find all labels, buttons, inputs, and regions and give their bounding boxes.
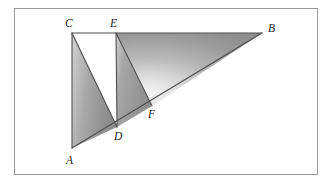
vertex-label-D: D bbox=[114, 131, 122, 143]
vertex-label-C: C bbox=[65, 18, 73, 30]
region-ACD bbox=[72, 33, 117, 148]
vertex-label-E: E bbox=[110, 18, 117, 30]
diagram-canvas: C E B F D A bbox=[0, 0, 332, 183]
vertex-label-A: A bbox=[66, 155, 73, 167]
geometry-figure bbox=[0, 0, 332, 183]
vertex-label-F: F bbox=[148, 109, 155, 121]
vertex-label-B: B bbox=[268, 23, 275, 35]
